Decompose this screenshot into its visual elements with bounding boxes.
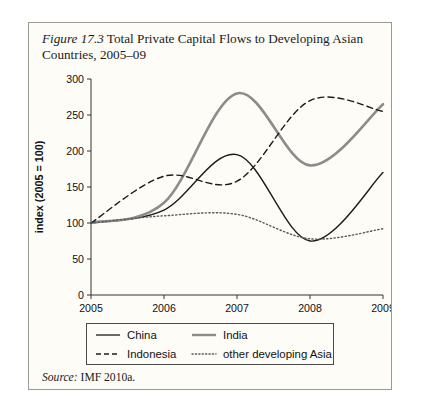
series-line-indonesia: [91, 97, 383, 223]
legend-swatch-indonesia: [95, 349, 121, 359]
source-note: Source: IMF 2010a.: [42, 371, 135, 384]
svg-text:300: 300: [66, 73, 84, 85]
legend-swatch-china: [95, 330, 121, 340]
figure-number: Figure 17.3: [42, 31, 104, 46]
svg-text:2006: 2006: [152, 302, 176, 314]
svg-text:150: 150: [66, 181, 84, 193]
legend-label-indonesia: Indonesia: [127, 348, 176, 360]
legend-item-indonesia: Indonesia: [95, 348, 191, 360]
legend-label-china: China: [127, 329, 157, 341]
line-chart: 050100150200250300 20052006200720082009 …: [29, 69, 391, 329]
chart-legend: China India Indonesia other developing A…: [86, 323, 334, 365]
svg-text:2005: 2005: [79, 302, 103, 314]
svg-text:200: 200: [66, 145, 84, 157]
legend-item-india: India: [191, 329, 343, 341]
svg-text:250: 250: [66, 109, 84, 121]
chart-plot-area: 050100150200250300 20052006200720082009 …: [29, 69, 391, 329]
data-series-group: [91, 93, 383, 241]
x-axis: 20052006200720082009: [79, 295, 391, 314]
legend-label-india: India: [223, 329, 248, 341]
figure-caption: Figure 17.3 Total Private Capital Flows …: [42, 31, 380, 63]
source-label: Source:: [42, 371, 78, 384]
legend-label-other-developing-asia: other developing Asia: [223, 348, 332, 360]
y-axis: 050100150200250300: [66, 73, 91, 301]
legend-item-china: China: [95, 329, 191, 341]
series-line-india: [91, 93, 383, 223]
svg-text:0: 0: [78, 289, 84, 301]
legend-swatch-india: [191, 330, 217, 340]
svg-text:2008: 2008: [298, 302, 322, 314]
legend-item-other-developing-asia: other developing Asia: [191, 348, 343, 360]
svg-text:2009: 2009: [371, 302, 391, 314]
svg-text:50: 50: [72, 253, 84, 265]
legend-swatch-other-developing-asia: [191, 349, 217, 359]
svg-text:2007: 2007: [225, 302, 249, 314]
svg-text:100: 100: [66, 217, 84, 229]
figure-frame: Figure 17.3 Total Private Capital Flows …: [28, 22, 392, 390]
y-axis-title: index (2005 = 100): [33, 140, 45, 233]
source-text: IMF 2010a.: [78, 371, 136, 384]
series-line-china: [91, 154, 383, 241]
